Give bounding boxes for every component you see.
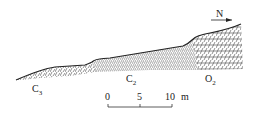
north-arrow-head	[226, 18, 232, 22]
scale-tick-0: 0	[105, 92, 110, 102]
unit-label-c2: C2	[126, 74, 136, 87]
scale-tick-10: 10	[165, 92, 175, 102]
unit-c2-area	[92, 40, 198, 72]
scale-tick-5: 5	[137, 92, 142, 102]
scale-unit: m	[181, 92, 189, 102]
unit-label-o2: O2	[205, 74, 216, 87]
north-label: N	[216, 9, 223, 19]
unit-label-c3: C3	[32, 84, 42, 97]
